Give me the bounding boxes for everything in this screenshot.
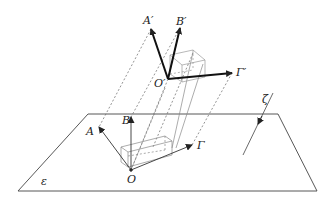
label-O: O xyxy=(127,174,136,185)
original-frame xyxy=(99,117,192,171)
label-O-prime: O′ xyxy=(154,78,166,89)
lower-box xyxy=(121,136,172,167)
label-A: A xyxy=(86,126,94,137)
axis-OA xyxy=(99,127,131,170)
label-A-prime: A′ xyxy=(143,15,153,26)
label-G-prime: Γ′ xyxy=(236,67,246,78)
figure-drawing xyxy=(0,0,335,204)
projection-lines xyxy=(99,28,232,170)
geometry-figure: A′ B′ Γ′ O′ A B Γ O ζ ε xyxy=(0,0,335,204)
zeta-direction-arrow xyxy=(258,116,262,124)
plane-epsilon xyxy=(18,114,317,191)
label-zeta: ζ xyxy=(262,94,268,105)
label-epsilon: ε xyxy=(41,176,47,187)
label-B: B xyxy=(122,115,130,126)
projected-frame xyxy=(151,28,232,79)
label-G: Γ xyxy=(197,140,205,151)
label-B-prime: B′ xyxy=(176,16,187,27)
